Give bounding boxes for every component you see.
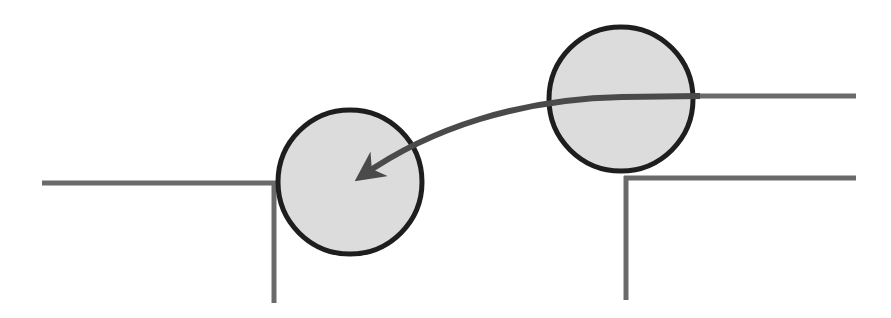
ball-end-position (278, 110, 422, 254)
step-ball-diagram (0, 0, 891, 318)
lower-step (42, 181, 276, 303)
